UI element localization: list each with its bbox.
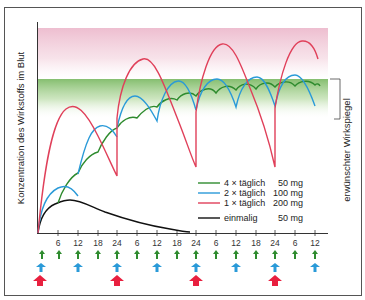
arrow-up-icon: [174, 250, 180, 259]
svg-text:einmalig: einmalig: [224, 213, 258, 223]
svg-text:50 mg: 50 mg: [278, 178, 303, 188]
desired-level-band: [38, 79, 328, 119]
svg-text:24: 24: [191, 238, 201, 248]
arrow-up-icon: [213, 250, 219, 259]
arrow-up-icon: [36, 263, 46, 272]
arrow-up-icon: [75, 250, 81, 259]
series-einmalig-50mg: [38, 200, 190, 233]
red-dose-arrows: [33, 275, 282, 286]
svg-text:24: 24: [270, 238, 280, 248]
svg-text:12: 12: [231, 238, 241, 248]
svg-text:6: 6: [214, 238, 219, 248]
arrow-up-icon: [253, 250, 259, 259]
y-axis-title: Konzentration des Wirkstoffs im Blut: [15, 51, 26, 204]
arrow-up-icon: [154, 250, 160, 259]
svg-text:6: 6: [135, 238, 140, 248]
svg-text:12: 12: [310, 238, 320, 248]
arrow-up-icon: [112, 263, 122, 272]
arrow-up-icon: [134, 250, 140, 259]
svg-text:1 × täglich: 1 × täglich: [224, 198, 265, 208]
desired-level-label: erwünschter Wirkspiegel: [341, 98, 352, 201]
svg-text:12: 12: [152, 238, 162, 248]
svg-text:24: 24: [112, 238, 122, 248]
arrow-up-icon: [193, 250, 199, 259]
arrow-up-icon: [39, 250, 45, 259]
arrow-up-icon: [268, 275, 282, 286]
arrow-up-icon: [73, 263, 83, 272]
green-dose-arrows: [39, 250, 318, 259]
svg-text:100 mg: 100 mg: [273, 188, 303, 198]
arrow-up-icon: [231, 263, 241, 272]
arrow-up-icon: [95, 250, 101, 259]
arrow-up-icon: [233, 250, 239, 259]
arrow-up-icon: [310, 263, 320, 272]
desired-level-bracket: [330, 79, 340, 119]
svg-text:12: 12: [73, 238, 83, 248]
svg-text:4 × täglich: 4 × täglich: [224, 178, 265, 188]
arrow-up-icon: [270, 263, 280, 272]
arrow-up-icon: [189, 275, 203, 286]
svg-text:18: 18: [93, 238, 103, 248]
svg-text:50 mg: 50 mg: [278, 213, 303, 223]
arrow-up-icon: [272, 250, 278, 259]
arrow-up-icon: [191, 263, 201, 272]
legend: 4 × täglich 50 mg 2 × täglich 100 mg 1 ×…: [198, 178, 303, 223]
svg-text:2 × täglich: 2 × täglich: [224, 188, 265, 198]
svg-text:18: 18: [251, 238, 261, 248]
x-tick-labels: 6 12 18 24 6 12 18 24 6 12 18 24 6 12: [56, 238, 320, 248]
arrow-up-icon: [110, 275, 124, 286]
arrow-up-icon: [56, 250, 62, 259]
arrow-up-icon: [312, 250, 318, 259]
svg-text:200 mg: 200 mg: [273, 198, 303, 208]
blue-dose-arrows: [36, 263, 320, 272]
toxic-range-band: [38, 28, 328, 79]
arrow-up-icon: [152, 263, 162, 272]
arrow-up-icon: [33, 275, 47, 286]
svg-text:18: 18: [172, 238, 182, 248]
chart: 6 12 18 24 6 12 18 24 6 12 18 24 6 12 Ko…: [0, 0, 365, 300]
svg-text:6: 6: [56, 238, 61, 248]
svg-text:6: 6: [293, 238, 298, 248]
arrow-up-icon: [114, 250, 120, 259]
arrow-up-icon: [292, 250, 298, 259]
